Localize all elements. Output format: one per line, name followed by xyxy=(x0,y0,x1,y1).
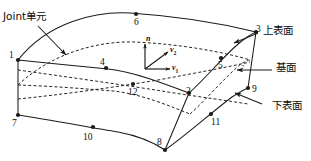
node-label-8: 8 xyxy=(157,138,162,148)
node-dot-10 xyxy=(91,125,95,129)
label-joint-element: Joint单元 xyxy=(3,11,46,22)
leader-lower-surface xyxy=(235,93,262,104)
node-dot-11 xyxy=(209,112,213,116)
node-label-3: 3 xyxy=(256,25,261,35)
base-edge-front xyxy=(18,85,190,114)
label-base-surface: 基面 xyxy=(276,62,296,73)
vector-label-v1: v1 xyxy=(172,64,178,74)
node-label-1: 1 xyxy=(9,51,14,61)
node-label-9: 9 xyxy=(252,85,257,95)
vector-v2-subscript: 2 xyxy=(174,50,177,56)
node-label-7: 7 xyxy=(12,119,17,129)
node-label-10: 10 xyxy=(83,133,93,143)
joint-element-figure: Joint单元 上表面 基面 下表面 1 2 3 4 5 6 7 8 9 10 … xyxy=(0,0,311,161)
node-dot-8 xyxy=(163,148,167,152)
vector-n-symbol: n xyxy=(146,34,150,43)
node-dot-1 xyxy=(16,58,20,62)
label-upper-surface: 上表面 xyxy=(263,25,293,36)
node-dot-9 xyxy=(246,86,250,90)
vector-label-n: n xyxy=(146,35,150,43)
node-dot-7 xyxy=(16,113,20,117)
node-label-12: 12 xyxy=(128,88,138,98)
node-markers xyxy=(16,12,258,152)
node-dot-12 xyxy=(131,82,135,86)
node-label-11: 11 xyxy=(211,118,220,128)
node-label-5: 5 xyxy=(218,61,223,71)
vector-v2-line xyxy=(145,52,168,69)
vector-v1-subscript: 1 xyxy=(176,68,179,74)
node-dot-6 xyxy=(134,12,138,16)
local-coordinate-frame xyxy=(145,44,170,69)
annotation-leaders xyxy=(38,26,272,104)
base-plane-edges xyxy=(18,42,250,114)
label-lower-surface: 下表面 xyxy=(272,100,302,111)
node-label-2: 2 xyxy=(186,87,191,97)
node-label-4: 4 xyxy=(100,58,105,68)
edge-8-11-9 xyxy=(165,88,248,150)
vector-label-v2: v2 xyxy=(170,46,176,56)
base-plane-marker-label: 7 xyxy=(241,64,245,71)
node-label-6: 6 xyxy=(134,18,139,28)
